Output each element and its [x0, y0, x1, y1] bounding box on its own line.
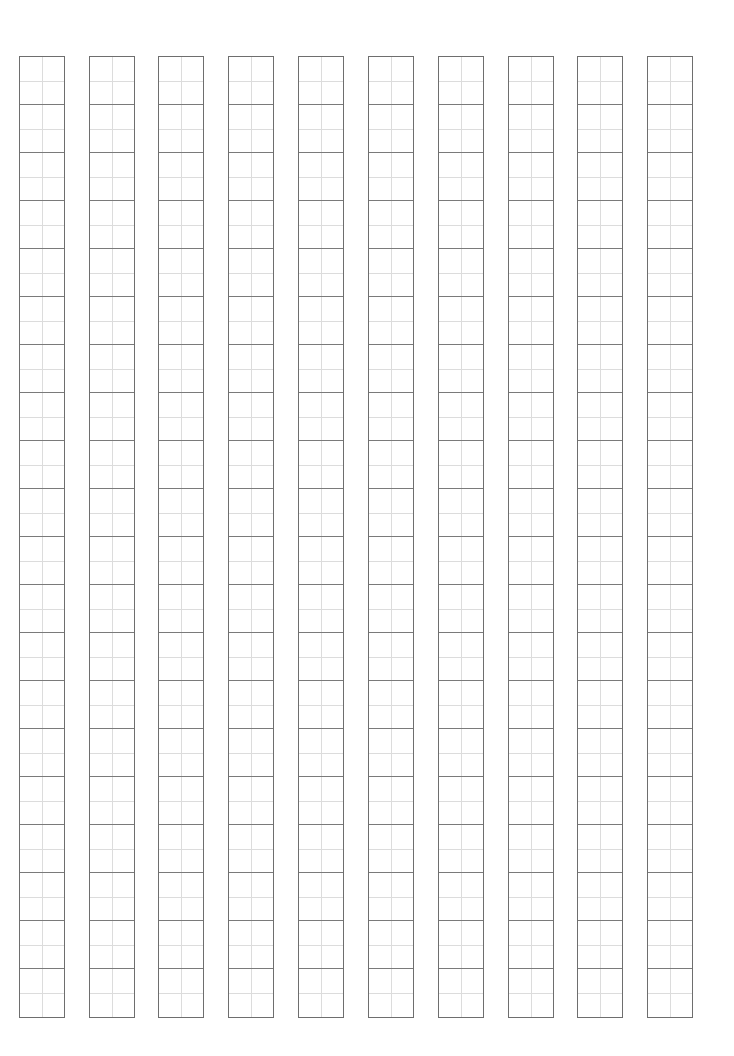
grid-cell [20, 393, 64, 441]
grid-cell [439, 57, 483, 105]
grid-cell [648, 105, 692, 153]
grid-cell [648, 585, 692, 633]
grid-cell [648, 57, 692, 105]
grid-cell [229, 153, 273, 201]
grid-cell [578, 873, 622, 921]
grid-cell [369, 921, 413, 969]
grid-cell [439, 489, 483, 537]
grid-cell [229, 921, 273, 969]
grid-cell [648, 297, 692, 345]
grid-cell [509, 297, 553, 345]
grid-cell [299, 201, 343, 249]
grid-cell [509, 681, 553, 729]
grid-column-9 [577, 56, 623, 1018]
grid-column-8 [508, 56, 554, 1018]
grid-cell [578, 393, 622, 441]
grid-cell [648, 777, 692, 825]
grid-cell [439, 297, 483, 345]
grid-cell [578, 537, 622, 585]
grid-cell [20, 873, 64, 921]
grid-cell [648, 537, 692, 585]
grid-cell [20, 441, 64, 489]
grid-cell [648, 249, 692, 297]
grid-cell [229, 57, 273, 105]
grid-column-7 [438, 56, 484, 1018]
grid-cell [509, 537, 553, 585]
grid-cell [20, 249, 64, 297]
grid-cell [90, 825, 134, 873]
grid-cell [509, 921, 553, 969]
grid-cell [159, 825, 203, 873]
grid-cell [229, 345, 273, 393]
grid-cell [229, 729, 273, 777]
grid-cell [229, 633, 273, 681]
grid-cell [578, 681, 622, 729]
grid-column-5 [298, 56, 344, 1018]
grid-cell [20, 297, 64, 345]
grid-cell [299, 969, 343, 1017]
grid-column-3 [158, 56, 204, 1018]
grid-cell [20, 777, 64, 825]
grid-cell [299, 297, 343, 345]
grid-cell [439, 777, 483, 825]
grid-cell [229, 441, 273, 489]
grid-cell [648, 969, 692, 1017]
grid-cell [159, 249, 203, 297]
grid-cell [578, 825, 622, 873]
grid-cell [159, 729, 203, 777]
grid-column-2 [89, 56, 135, 1018]
grid-cell [369, 873, 413, 921]
grid-cell [439, 153, 483, 201]
grid-cell [90, 873, 134, 921]
grid-cell [509, 201, 553, 249]
grid-cell [578, 777, 622, 825]
grid-cell [509, 729, 553, 777]
grid-cell [229, 393, 273, 441]
grid-cell [159, 489, 203, 537]
grid-cell [648, 729, 692, 777]
grid-cell [369, 681, 413, 729]
grid-cell [369, 201, 413, 249]
grid-cell [229, 969, 273, 1017]
grid-cell [509, 873, 553, 921]
grid-cell [648, 825, 692, 873]
grid-cell [299, 57, 343, 105]
grid-cell [509, 393, 553, 441]
grid-cell [229, 201, 273, 249]
grid-cell [369, 633, 413, 681]
grid-cell [159, 921, 203, 969]
grid-cell [369, 585, 413, 633]
grid-cell [229, 585, 273, 633]
grid-cell [439, 345, 483, 393]
grid-cell [509, 57, 553, 105]
grid-cell [439, 825, 483, 873]
grid-cell [509, 969, 553, 1017]
grid-cell [439, 969, 483, 1017]
grid-cell [369, 393, 413, 441]
grid-cell [90, 201, 134, 249]
grid-cell [439, 585, 483, 633]
grid-cell [369, 57, 413, 105]
grid-column-4 [228, 56, 274, 1018]
grid-cell [159, 345, 203, 393]
grid-cell [159, 681, 203, 729]
grid-cell [159, 873, 203, 921]
grid-cell [439, 105, 483, 153]
grid-cell [509, 153, 553, 201]
grid-cell [369, 249, 413, 297]
grid-cell [90, 633, 134, 681]
grid-cell [578, 585, 622, 633]
grid-cell [20, 681, 64, 729]
grid-cell [648, 681, 692, 729]
grid-cell [299, 393, 343, 441]
grid-cell [439, 681, 483, 729]
grid-cell [90, 537, 134, 585]
grid-cell [229, 825, 273, 873]
grid-cell [578, 345, 622, 393]
grid-cell [229, 249, 273, 297]
grid-cell [578, 921, 622, 969]
grid-cell [20, 345, 64, 393]
grid-cell [159, 969, 203, 1017]
grid-cell [90, 585, 134, 633]
grid-cell [159, 57, 203, 105]
